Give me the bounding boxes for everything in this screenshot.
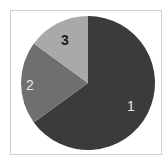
slice-label-2: 2	[26, 77, 34, 93]
slice-label-3: 3	[61, 32, 69, 48]
pie-chart: 1 2 3	[0, 0, 166, 162]
slice-label-1: 1	[127, 98, 135, 114]
pie-slices	[21, 16, 155, 150]
